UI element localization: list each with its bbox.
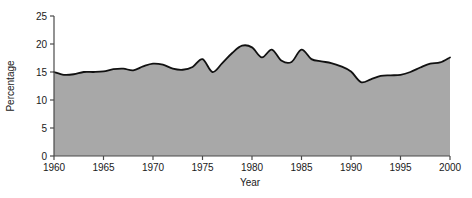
x-tick-label: 1995 (389, 162, 412, 173)
x-axis-title: Year (240, 177, 261, 188)
area-chart: 196019651970197519801985199019952000 051… (0, 0, 472, 198)
y-axis-ticks: 0510152025 (36, 11, 54, 162)
x-tick-label: 1980 (241, 162, 264, 173)
y-axis-title: Percentage (5, 60, 16, 112)
x-tick-label: 2000 (439, 162, 462, 173)
area-fill (54, 45, 450, 156)
x-tick-label: 1960 (43, 162, 66, 173)
x-tick-label: 1965 (92, 162, 115, 173)
x-tick-label: 1990 (340, 162, 363, 173)
x-tick-label: 1975 (191, 162, 214, 173)
y-tick-label: 0 (41, 151, 47, 162)
y-tick-label: 10 (36, 95, 48, 106)
x-tick-label: 1985 (290, 162, 313, 173)
x-tick-label: 1970 (142, 162, 165, 173)
y-tick-label: 20 (36, 39, 48, 50)
y-tick-label: 25 (36, 11, 48, 22)
y-tick-label: 5 (41, 123, 47, 134)
x-axis-ticks: 196019651970197519801985199019952000 (43, 156, 462, 173)
chart-container: 196019651970197519801985199019952000 051… (0, 0, 472, 198)
y-tick-label: 15 (36, 67, 48, 78)
